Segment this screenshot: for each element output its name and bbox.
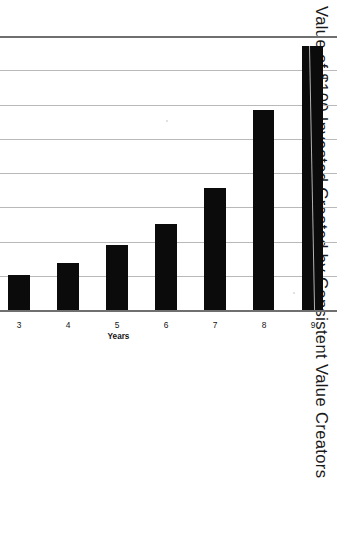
category-tick-label-3: 3	[12, 320, 26, 330]
bar-6	[155, 224, 177, 310]
category-tick-label-6: 6	[159, 320, 173, 330]
bar-9	[302, 46, 324, 310]
bar-3	[8, 275, 30, 310]
category-tick-label-8: 8	[257, 320, 271, 330]
category-tick-label-5: 5	[110, 320, 124, 330]
gridline	[0, 139, 337, 140]
bar-5	[106, 245, 128, 310]
category-tick-label-7: 7	[208, 320, 222, 330]
bar-4	[57, 263, 79, 310]
scan-speck	[166, 120, 168, 122]
plot-area: $0$200$400$600$800$1,000$1,200$1,400$1,6…	[0, 36, 337, 310]
bar-7	[204, 188, 226, 310]
scan-speck	[293, 292, 295, 294]
category-tick-label-4: 4	[61, 320, 75, 330]
plot-left-border	[0, 36, 337, 38]
rotated-page: Value of $100 Invested Created by Consis…	[0, 0, 343, 539]
category-axis-title: Years	[108, 332, 130, 341]
gridline	[0, 173, 337, 174]
gridline	[0, 105, 337, 106]
category-tick-label-9: 9	[306, 320, 320, 330]
gridline	[0, 207, 337, 208]
value-axis-line	[0, 310, 337, 312]
bar-8	[253, 110, 275, 310]
gridline	[0, 70, 337, 71]
chart-page: Value of $100 Invested Created by Consis…	[0, 0, 343, 539]
